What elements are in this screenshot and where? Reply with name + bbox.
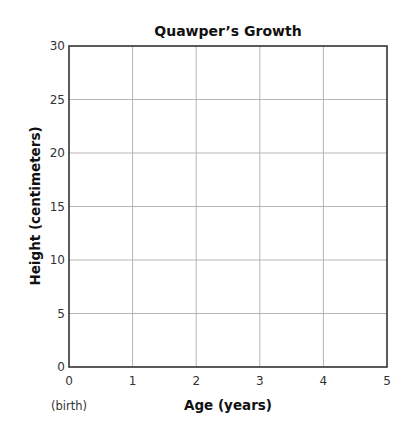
grid-lines: [69, 46, 387, 367]
x-axis-title: Age (years): [184, 397, 272, 413]
x-tick-note-birth: (birth): [51, 399, 87, 413]
chart-title: Quawper’s Growth: [154, 23, 301, 39]
y-tick-label: 30: [50, 39, 65, 53]
growth-chart: Quawper’s Growth 051015202530 012345 (bi…: [0, 0, 409, 431]
x-tick-label: 2: [192, 374, 200, 388]
x-tick-label: 3: [256, 374, 264, 388]
x-tick-label: 1: [129, 374, 137, 388]
x-tick-label: 0: [65, 374, 73, 388]
y-tick-label: 15: [50, 200, 65, 214]
y-tick-label: 5: [57, 307, 65, 321]
y-tick-label: 20: [50, 146, 65, 160]
x-tick-label: 4: [320, 374, 328, 388]
y-axis-title: Height (centimeters): [27, 126, 43, 285]
x-axis-ticks: 012345: [65, 374, 391, 388]
x-tick-label: 5: [383, 374, 391, 388]
y-axis-ticks: 051015202530: [50, 39, 65, 374]
y-tick-label: 0: [57, 360, 65, 374]
y-tick-label: 10: [50, 253, 65, 267]
y-tick-label: 25: [50, 93, 65, 107]
